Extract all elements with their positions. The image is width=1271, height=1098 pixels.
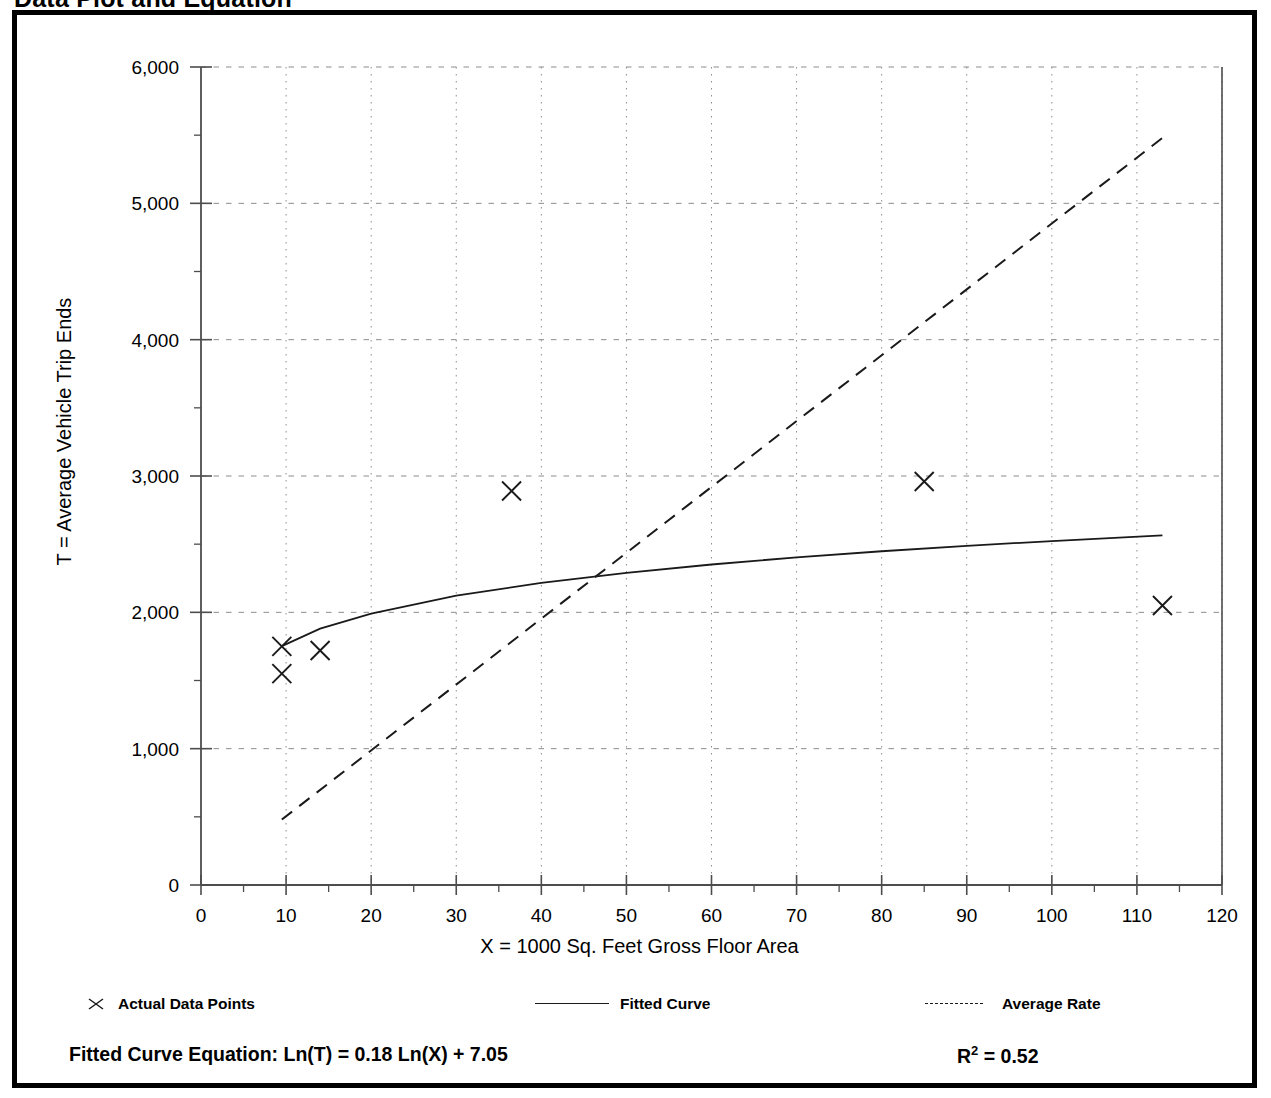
tick-labels: 01,0002,0003,0004,0005,0006,000010203040… bbox=[131, 57, 1237, 926]
chart-svg: 01,0002,0003,0004,0005,0006,000010203040… bbox=[17, 15, 1262, 990]
y-axis-title: T = Average Vehicle Trip Ends bbox=[53, 267, 76, 597]
x-tick-label: 70 bbox=[786, 905, 807, 926]
x-tick-label: 90 bbox=[956, 905, 977, 926]
x-tick-label: 60 bbox=[701, 905, 722, 926]
legend-label-average-rate: Average Rate bbox=[1002, 995, 1101, 1013]
data-point-marker bbox=[502, 481, 521, 500]
data-layer bbox=[272, 138, 1172, 820]
r-squared-exponent: 2 bbox=[971, 1043, 978, 1058]
x-tick-label: 30 bbox=[446, 905, 467, 926]
dashed-line-icon bbox=[917, 996, 991, 1012]
legend-item-fitted-curve: Fitted Curve bbox=[535, 995, 710, 1013]
fitted-curve-equation: Fitted Curve Equation: Ln(T) = 0.18 Ln(X… bbox=[69, 1043, 508, 1066]
y-tick-label: 4,000 bbox=[131, 330, 179, 351]
x-tick-label: 80 bbox=[871, 905, 892, 926]
chart-legend: Actual Data Points Fitted Curve Average … bbox=[17, 995, 1262, 1029]
y-tick-label: 2,000 bbox=[131, 602, 179, 623]
r-squared-number: = 0.52 bbox=[984, 1045, 1039, 1067]
x-tick-label: 120 bbox=[1206, 905, 1238, 926]
legend-label-fitted-curve: Fitted Curve bbox=[620, 995, 710, 1013]
figure-frame: 01,0002,0003,0004,0005,0006,000010203040… bbox=[12, 10, 1257, 1088]
r-squared-value: R2 = 0.52 bbox=[957, 1043, 1039, 1068]
x-tick-label: 20 bbox=[361, 905, 382, 926]
data-point-marker bbox=[311, 641, 330, 660]
r-squared-symbol: R bbox=[957, 1045, 971, 1067]
average-rate-line bbox=[282, 138, 1163, 820]
legend-label-actual-data-points: Actual Data Points bbox=[118, 995, 255, 1013]
y-tick-label: 6,000 bbox=[131, 57, 179, 78]
x-axis-title: X = 1000 Sq. Feet Gross Floor Area bbox=[17, 935, 1262, 958]
fitted-curve-line bbox=[282, 535, 1163, 646]
data-point-marker bbox=[1153, 596, 1172, 615]
chart-plot-area: 01,0002,0003,0004,0005,0006,000010203040… bbox=[17, 15, 1262, 990]
y-tick-label: 0 bbox=[168, 875, 179, 896]
x-tick-label: 50 bbox=[616, 905, 637, 926]
y-tick-label: 5,000 bbox=[131, 193, 179, 214]
legend-item-average-rate: Average Rate bbox=[917, 995, 1101, 1013]
x-tick-label: 0 bbox=[196, 905, 207, 926]
equation-row: Fitted Curve Equation: Ln(T) = 0.18 Ln(X… bbox=[17, 1043, 1262, 1083]
data-point-marker bbox=[272, 637, 291, 656]
y-tick-label: 3,000 bbox=[131, 466, 179, 487]
axes bbox=[190, 67, 1222, 895]
x-tick-label: 100 bbox=[1036, 905, 1068, 926]
solid-line-icon bbox=[535, 996, 609, 1012]
gridlines bbox=[201, 67, 1222, 885]
x-marker-icon bbox=[85, 996, 107, 1012]
data-point-marker bbox=[272, 664, 291, 683]
x-tick-label: 10 bbox=[276, 905, 297, 926]
legend-item-actual-data-points: Actual Data Points bbox=[85, 995, 255, 1013]
y-tick-label: 1,000 bbox=[131, 739, 179, 760]
x-tick-label: 110 bbox=[1122, 905, 1152, 926]
x-tick-label: 40 bbox=[531, 905, 552, 926]
data-point-marker bbox=[915, 472, 934, 491]
